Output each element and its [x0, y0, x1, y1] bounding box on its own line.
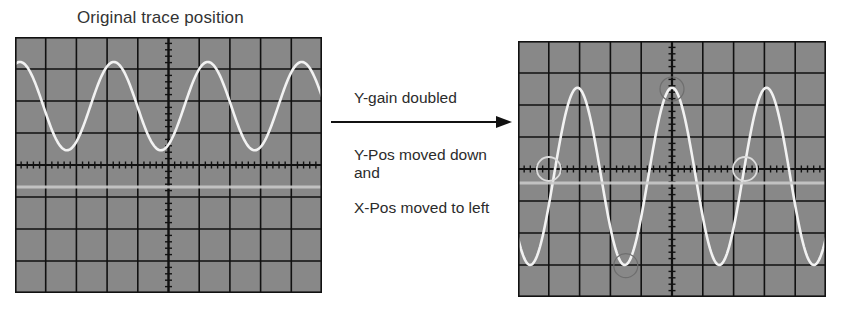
- right-arrow-icon: [330, 114, 514, 130]
- y-gain-label: Y-gain doubled: [354, 89, 457, 107]
- y-pos-label: Y-Pos moved down and: [354, 146, 504, 182]
- original-trace-title: Original trace position: [77, 8, 257, 28]
- oscilloscope-screen-original: [15, 37, 322, 293]
- x-pos-label: X-Pos moved to left: [354, 199, 504, 217]
- oscilloscope-screen-adjusted: [518, 41, 826, 297]
- arrow-head: [496, 116, 512, 128]
- oscilloscope-adjusted: [518, 41, 826, 297]
- oscilloscope-original: [15, 37, 322, 293]
